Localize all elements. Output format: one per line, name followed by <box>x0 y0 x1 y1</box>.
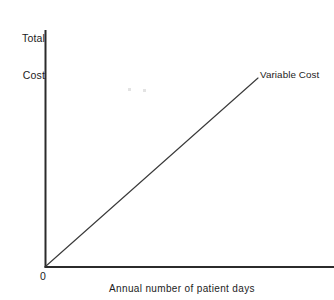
origin-tick-label: 0 <box>40 270 46 282</box>
scan-speck-icon <box>143 89 146 92</box>
y-axis-title-line1: Total <box>11 32 45 44</box>
x-axis-title: Annual number of patient days <box>45 283 319 295</box>
chart-plot-area <box>0 0 334 300</box>
variable-cost-label: Variable Cost <box>260 69 319 81</box>
y-axis-title-line2: Cost <box>11 69 45 81</box>
variable-cost-line <box>46 78 258 266</box>
y-axis-title: Total Cost <box>11 7 45 106</box>
scan-speck-icon <box>128 88 131 91</box>
variable-cost-chart: Total Cost 0 Variable Cost Annual number… <box>0 0 334 300</box>
